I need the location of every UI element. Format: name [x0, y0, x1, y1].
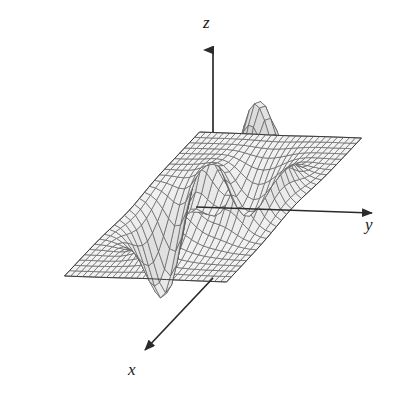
z-axis-label: z	[203, 14, 210, 31]
y-axis-label: y	[365, 216, 373, 233]
surface-plot-figure: z y x	[0, 0, 396, 403]
x-axis-label: x	[128, 361, 136, 378]
surface-plot-canvas	[0, 0, 396, 403]
